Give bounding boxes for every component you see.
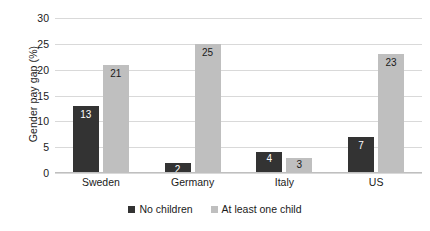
legend-label: At least one child [222,203,302,215]
y-axis-tick-label: 25 [7,38,49,50]
y-axis-tick-label: 20 [7,64,49,76]
bar-group: 723 [348,18,404,173]
y-axis-tick-label: 5 [7,141,49,153]
legend-item[interactable]: At least one child [211,203,302,215]
bar-value-label: 25 [195,47,221,58]
bar-value-label: 7 [348,140,374,151]
bar[interactable]: 25 [195,44,221,173]
gridline [55,173,422,174]
x-axis-category-label: US [330,176,422,188]
x-axis-category-labels: SwedenGermanyItalyUS [55,176,422,194]
x-axis-category-label: Sweden [55,176,147,188]
bar[interactable]: 23 [378,54,404,173]
bar-group: 43 [256,18,312,173]
y-axis-tick-label: 30 [7,12,49,24]
bar[interactable]: 4 [256,152,282,173]
bar-value-label: 4 [256,153,282,164]
gender-pay-gap-bar-chart: Gender pay gap (%) 302520151050 13212254… [0,0,430,231]
bar[interactable]: 7 [348,137,374,173]
bar[interactable]: 21 [103,65,129,174]
bar-group: 1321 [73,18,129,173]
bar-value-label: 23 [378,57,404,68]
bar-value-label: 13 [73,109,99,120]
bar[interactable]: 13 [73,106,99,173]
legend-swatch-icon [128,206,135,213]
y-axis-tick-label: 0 [7,167,49,179]
plot-area: 132122543723 [55,18,422,173]
bar-value-label: 21 [103,68,129,79]
bar[interactable]: 3 [286,158,312,174]
chart-legend: No childrenAt least one child [0,203,430,215]
legend-swatch-icon [211,206,218,213]
bar-value-label: 3 [286,159,312,170]
legend-label: No children [139,203,192,215]
y-axis-tick-label: 10 [7,115,49,127]
x-axis-category-label: Germany [147,176,239,188]
y-axis-tick-labels: 302520151050 [0,18,49,173]
legend-item[interactable]: No children [128,203,192,215]
x-axis-line [55,172,422,173]
y-axis-tick-label: 15 [7,90,49,102]
bar-value-label: 2 [165,164,191,175]
x-axis-category-label: Italy [239,176,331,188]
bar-group: 225 [165,18,221,173]
